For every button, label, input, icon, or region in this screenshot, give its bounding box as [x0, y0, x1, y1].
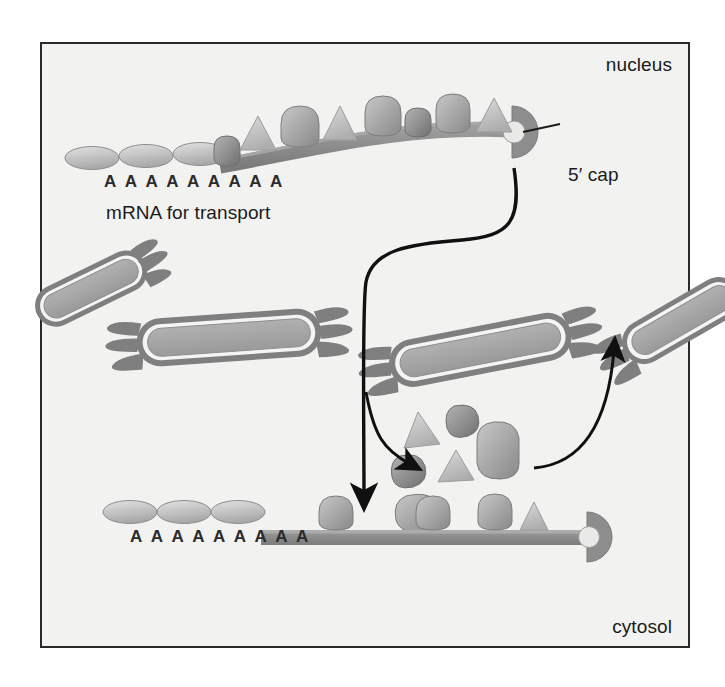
protein-blob	[365, 96, 401, 136]
protein-release-arrow	[366, 392, 410, 464]
bottom-five-prime-cap	[579, 512, 613, 562]
label-poly-a-tail-bottom: A A A A A A A A A	[130, 527, 311, 547]
label-five-prime-cap: 5′ cap	[568, 164, 619, 186]
protein-blob	[436, 94, 470, 133]
nuclear-pore-right-edge	[589, 269, 725, 390]
label-mrna-for-transport: mRNA for transport	[106, 202, 270, 224]
protein-triangle	[404, 412, 440, 448]
top-mrna-group	[65, 64, 538, 170]
protein-triangle	[323, 106, 357, 140]
protein-blob	[478, 494, 512, 530]
figure-canvas: nucleus cytosol mRNA for transport 5′ ca…	[0, 0, 725, 687]
protein-blob	[405, 108, 431, 137]
nuclear-pore-left-center	[104, 305, 355, 372]
protein-blob	[214, 136, 240, 166]
bottom-poly-a-ellipses	[103, 501, 265, 524]
bottom-bound-proteins	[319, 494, 548, 530]
protein-blob	[391, 455, 425, 488]
protein-triangle	[438, 450, 474, 482]
protein-blob	[416, 496, 450, 530]
top-bound-proteins	[214, 64, 512, 166]
protein-triangle	[476, 98, 512, 132]
label-cytosol: cytosol	[612, 616, 672, 638]
protein-triangle	[520, 502, 548, 530]
protein-blob	[477, 422, 519, 479]
protein-blob	[281, 106, 319, 147]
protein-blob	[319, 496, 353, 530]
label-poly-a-tail-top: A A A A A A A A A	[104, 172, 285, 192]
diagram-svg	[42, 44, 692, 650]
diagram-frame: nucleus cytosol mRNA for transport 5′ ca…	[40, 42, 690, 648]
label-nucleus: nucleus	[606, 54, 672, 76]
protein-blob	[446, 405, 479, 437]
nuclear-pore-right-center	[354, 303, 607, 399]
top-poly-a-ellipses	[65, 143, 227, 170]
protein-triangle	[240, 116, 276, 150]
